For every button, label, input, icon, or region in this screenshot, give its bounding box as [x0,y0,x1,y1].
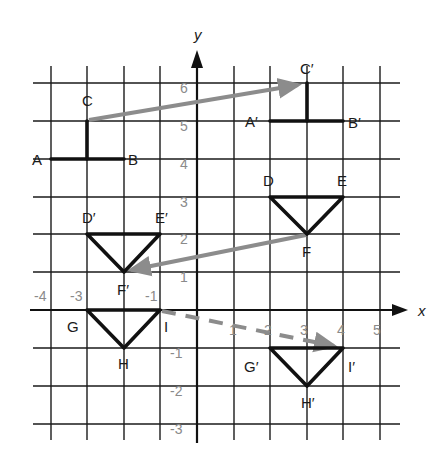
label-e: E [337,172,347,189]
x-tick: 4 [337,322,345,338]
y-tick: 4 [180,156,188,172]
label-g-prime: G′ [244,358,259,375]
label-e-prime: E′ [155,209,168,226]
x-tick-labels: -4 -3 -1 1 2 3 4 5 [34,288,381,338]
triangle-ghi: G H I [67,310,168,372]
x-tick: 5 [373,322,381,338]
x-tick: -3 [70,288,83,304]
y-tick: -2 [170,383,183,399]
label-c-prime: C′ [300,60,314,77]
label-h-prime: H′ [301,394,315,411]
y-tick: 3 [180,194,188,210]
arrow-f-to-f-prime [131,235,306,270]
label-d: D [263,172,274,189]
label-c: C [82,92,93,109]
x-axis-arrow-icon [392,304,408,316]
x-tick: 3 [300,322,308,338]
label-a-prime: A′ [245,113,258,130]
y-tick: 2 [180,231,188,247]
triangle-def: D E F [263,172,347,260]
arrow-i-to-i-prime [162,311,334,346]
translation-arrows [89,85,334,346]
x-tick: -1 [145,288,158,304]
coordinate-plane: x y -4 -3 -1 1 2 3 4 5 6 5 4 3 2 1 -1 -2… [0,0,443,464]
arrow-c-to-c-prime [89,85,298,120]
y-tick: 1 [180,269,188,285]
label-b-prime: B′ [348,114,361,131]
label-i-prime: I′ [348,358,355,375]
y-axis-label: y [193,26,203,43]
triangle-def-prime: D′ E′ F′ [82,209,168,298]
label-a: A [32,151,42,168]
label-b: B [128,151,138,168]
label-g: G [67,318,79,335]
triangle-ghi-prime: G′ H′ I′ [244,348,355,411]
figure-abc: A B C [32,92,138,168]
x-tick: -4 [34,288,47,304]
y-tick: -1 [170,345,183,361]
y-tick: -3 [170,421,183,437]
label-d-prime: D′ [82,209,96,226]
label-i: I [164,318,168,335]
y-tick: 6 [180,80,188,96]
x-axis-label: x [417,302,426,319]
label-h: H [118,355,129,372]
label-f: F [302,243,311,260]
y-axis-arrow-icon [191,50,203,68]
label-f-prime: F′ [117,281,129,298]
y-tick: 5 [180,118,188,134]
